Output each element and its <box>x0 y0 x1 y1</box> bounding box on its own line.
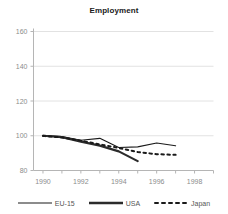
x-tick-label-1990: 1990 <box>35 178 51 185</box>
legend-item-usa[interactable]: USA <box>89 199 140 207</box>
legend-swatch-japan <box>154 199 188 207</box>
y-tick-label-80: 80 <box>20 167 28 174</box>
y-tick-label-160: 160 <box>16 28 28 35</box>
axis-lines <box>34 29 214 171</box>
x-tick-label-1992: 1992 <box>73 178 89 185</box>
y-tick-label-120: 120 <box>16 98 28 105</box>
x-tick-label-1994: 1994 <box>111 178 127 185</box>
x-tick-label-1996: 1996 <box>149 178 165 185</box>
legend-label-eu15: EU-15 <box>55 200 75 207</box>
y-tick-labels: 80100120140160 <box>16 28 28 174</box>
y-tick-label-140: 140 <box>16 63 28 70</box>
x-tick-label-1998: 1998 <box>187 178 203 185</box>
legend-swatch-eu15 <box>18 199 52 207</box>
series-lines <box>43 135 176 161</box>
series-line-japan <box>43 136 176 155</box>
legend-label-usa: USA <box>126 200 140 207</box>
gridlines <box>34 32 214 136</box>
plot-area: 80100120140160 19901992199419961998 <box>0 0 228 214</box>
legend-swatch-usa <box>89 199 123 207</box>
x-tick-labels: 19901992199419961998 <box>35 178 202 185</box>
legend-item-eu15[interactable]: EU-15 <box>18 199 75 207</box>
employment-chart: Employment 80100120140160 19901992199419… <box>0 0 228 214</box>
y-tick-label-100: 100 <box>16 132 28 139</box>
chart-legend: EU-15 USA Japan <box>0 192 228 214</box>
legend-item-japan[interactable]: Japan <box>154 199 210 207</box>
legend-label-japan: Japan <box>191 200 210 207</box>
